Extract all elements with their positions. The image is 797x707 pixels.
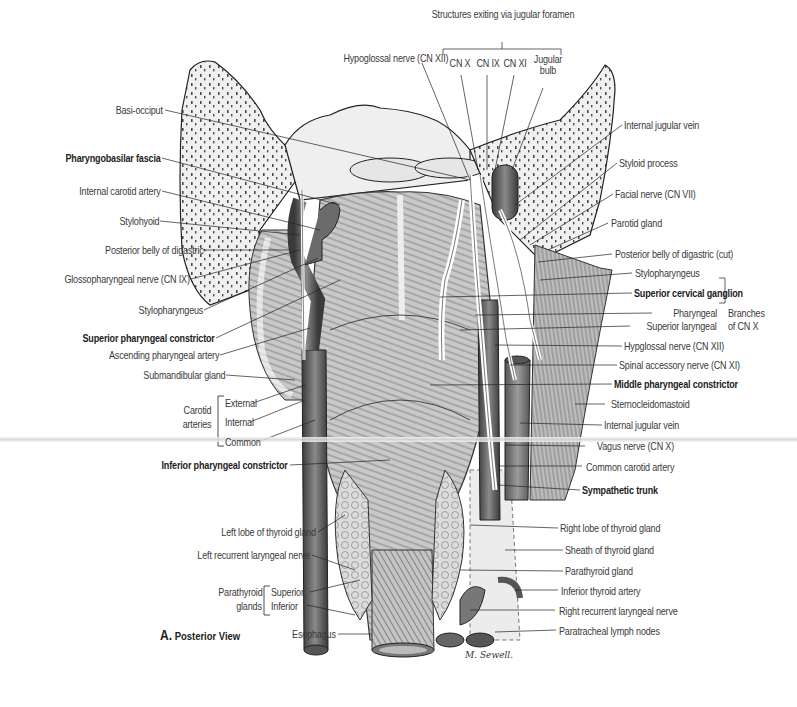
- label-parathyroid-glands-1: Parathyroid: [218, 586, 262, 598]
- caption-letter: A.: [160, 627, 172, 643]
- label-branches-cnx-1: Branches: [728, 307, 765, 319]
- caption-text: Posterior View: [175, 630, 241, 642]
- label-parathyroid-superior: Superior: [271, 586, 304, 598]
- label-inferior-thyroid-artery: Inferior thyroid artery: [561, 585, 640, 597]
- label-cnx-pharyngeal: Pharyngeal: [673, 307, 717, 319]
- label-facial-nerve: Facial nerve (CN VII): [615, 188, 696, 200]
- label-ascending-pharyngeal-artery: Ascending pharyngeal artery: [109, 349, 219, 361]
- label-parathyroid-glands-2: glands: [236, 600, 262, 612]
- figure-caption: A. Posterior View: [160, 627, 240, 643]
- label-right-recurrent-laryngeal: Right recurrent laryngeal nerve: [559, 605, 678, 617]
- label-stylopharyngeus-right: Stylopharyngeus: [635, 267, 700, 279]
- label-internal-carotid-artery: Internal carotid artery: [80, 185, 161, 197]
- label-carotid-internal: Internal: [225, 416, 254, 428]
- label-pharyngobasilar-fascia: Pharyngobasilar fascia: [66, 152, 161, 164]
- label-esophagus: Esophagus: [292, 628, 336, 640]
- label-sheath-thyroid: Sheath of thyroid gland: [565, 544, 654, 556]
- label-parotid-gland: Parotid gland: [611, 217, 662, 229]
- label-posterior-belly-digastric: Posterior belly of digastric: [105, 244, 204, 256]
- label-superior-cervical-ganglion: Superior cervical ganglion: [634, 287, 743, 299]
- label-carotid-arteries-2: arteries: [182, 418, 211, 430]
- label-left-lobe-thyroid: Left lobe of thyroid gland: [222, 526, 316, 538]
- label-vagus-nerve: Vagus nerve (CN X): [597, 440, 674, 452]
- label-internal-jugular-vein: Internal jugular vein: [604, 419, 679, 431]
- label-cnx-superior-laryngeal: Superior laryngeal: [647, 320, 717, 332]
- label-stylohyoid: Stylohyoid: [119, 215, 159, 227]
- label-jugular-bulb: Jugular bulb: [533, 54, 564, 76]
- label-jugular-foramen-title: Structures exiting via jugular foramen: [430, 8, 576, 20]
- label-internal-jugular-vein-top: Internal jugular vein: [624, 119, 699, 131]
- label-cn-xi: CN XI: [502, 57, 528, 69]
- label-middle-pharyngeal-constrictor: Middle pharyngeal constrictor: [614, 378, 738, 390]
- label-submandibular-gland: Submandibular gland: [143, 369, 225, 381]
- label-styloid-process: Styloid process: [619, 157, 678, 169]
- label-sternocleidomastoid: Sternocleidomastoid: [611, 398, 690, 410]
- label-carotid-external: External: [225, 397, 257, 409]
- label-carotid-common: Common: [225, 436, 261, 448]
- label-basi-occiput: Basi-occiput: [116, 104, 163, 116]
- label-stylopharyngeus-left: Stylopharyngeus: [138, 304, 203, 316]
- label-parathyroid-gland: Parathyroid gland: [565, 565, 633, 577]
- label-right-lobe-thyroid: Right lobe of thyroid gland: [560, 522, 660, 534]
- label-spinal-accessory-nerve: Spinal accessory nerve (CN XI): [619, 359, 740, 371]
- label-carotid-arteries-1: Carotid: [183, 404, 211, 416]
- label-cn-x: CN X: [447, 57, 473, 69]
- anatomy-figure: Structures exiting via jugular foramen C…: [0, 0, 797, 707]
- label-sympathetic-trunk: Sympathetic trunk: [582, 484, 658, 496]
- label-cn-ix: CN IX: [475, 57, 501, 69]
- label-parathyroid-inferior: Inferior: [271, 600, 298, 612]
- label-hypoglossal-nerve-top: Hypoglossal nerve (CN XII): [343, 52, 446, 64]
- label-superior-pharyngeal-constrictor: Superior pharyngeal constrictor: [83, 332, 215, 344]
- label-inferior-pharyngeal-constrictor: Inferior pharyngeal constrictor: [162, 459, 288, 471]
- artist-signature: M. Sewell.: [465, 650, 513, 660]
- label-posterior-belly-digastric-cut: Posterior belly of digastric (cut): [615, 248, 733, 260]
- scan-artifact-band: [0, 437, 797, 442]
- label-left-recurrent-laryngeal: Left recurrent laryngeal nerve: [197, 549, 310, 561]
- label-paratracheal-lymph-nodes: Paratracheal lymph nodes: [559, 625, 660, 637]
- label-glossopharyngeal-nerve: Glossopharyngeal nerve (CN IX): [65, 273, 190, 285]
- label-common-carotid-artery: Common carotid artery: [586, 461, 674, 473]
- label-hypoglossal-nerve-right: Hypglossal nerve (CN XII): [624, 340, 724, 352]
- label-branches-cnx-2: of CN X: [728, 320, 758, 332]
